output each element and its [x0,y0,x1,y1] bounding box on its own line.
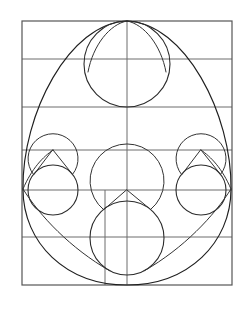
geometric-construction-figure: Geometric egg construction diagram Recta… [0,0,248,309]
lower-left-teardrop [28,134,78,175]
guide-line-group [22,21,232,285]
lower-right-teardrop [176,134,226,175]
figure-root: Geometric egg construction diagram Recta… [0,0,248,309]
